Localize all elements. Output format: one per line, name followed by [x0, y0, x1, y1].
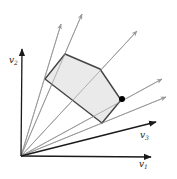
- label-v1: v1: [139, 159, 148, 170]
- axis-v2: [21, 49, 22, 156]
- highlight-point: [119, 96, 125, 102]
- ray-overlay-3: [21, 31, 137, 156]
- label-v2: v2: [9, 55, 18, 66]
- cone-diagram: v1v2v3: [0, 0, 177, 179]
- vertex-dot: [119, 96, 125, 102]
- polygon-region: [45, 54, 121, 123]
- axis-v1: [21, 156, 151, 157]
- label-v3: v3: [140, 130, 149, 141]
- axis-v3: [21, 122, 156, 156]
- ray-overlay-1: [21, 24, 61, 156]
